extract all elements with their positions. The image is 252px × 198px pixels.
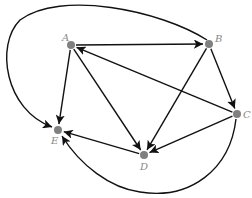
edge-c-to-a	[77, 47, 233, 112]
edge-c-to-d	[149, 116, 232, 153]
edge-b-to-e	[7, 5, 207, 127]
edge-b-to-d	[147, 48, 206, 150]
node-label-b: B	[214, 33, 222, 44]
graph-canvas: ABCDE	[0, 0, 252, 198]
edge-c-to-e	[62, 119, 236, 193]
node-label-a: A	[61, 32, 69, 43]
edge-a-to-e	[59, 50, 70, 124]
edge-a-to-d	[74, 49, 141, 150]
edges	[7, 5, 236, 193]
edge-a-to-b	[76, 44, 203, 45]
node-e	[54, 126, 62, 134]
node-label-e: E	[50, 135, 59, 146]
edge-d-to-e	[64, 132, 139, 154]
node-label-d: D	[139, 161, 148, 172]
edge-b-to-c	[211, 49, 235, 109]
node-c	[233, 110, 241, 118]
node-d	[140, 151, 148, 159]
node-label-c: C	[243, 109, 251, 120]
node-b	[205, 40, 213, 48]
nodes: ABCDE	[50, 32, 251, 172]
